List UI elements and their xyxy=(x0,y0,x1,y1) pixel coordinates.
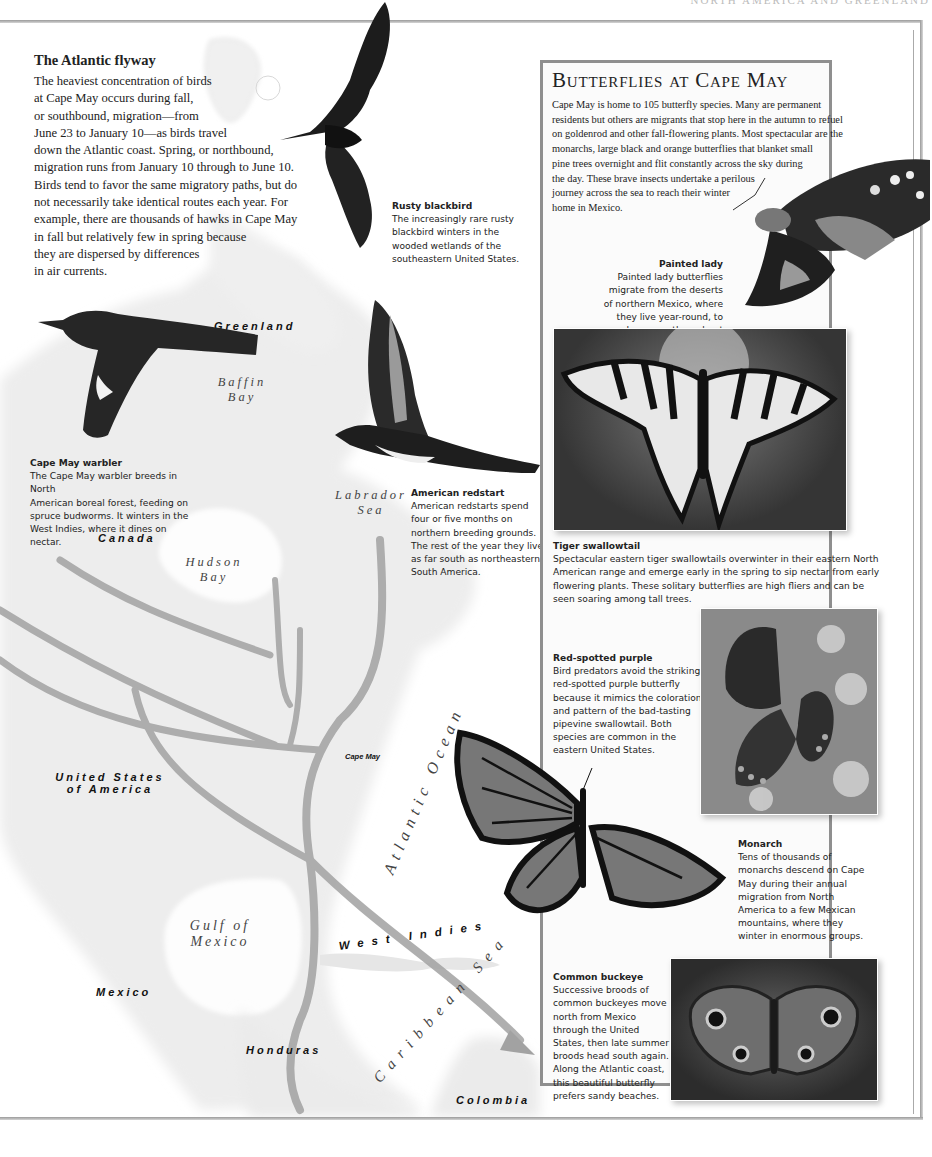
caption-tiger-swallowtail: Tiger swallowtail Spectacular eastern ti… xyxy=(553,540,913,606)
caption-line: States, then late summer xyxy=(553,1038,669,1048)
caption-american-redstart: American redstart American redstarts spe… xyxy=(411,487,546,579)
sidebar-line: Cape May is home to 105 butterfly specie… xyxy=(552,99,821,110)
caption-line: this beautiful butterfly xyxy=(553,1078,655,1088)
intro-line: down the Atlantic coast. Spring, or nort… xyxy=(34,143,274,157)
caption-line: The Cape May warbler breeds in North xyxy=(30,471,177,494)
intro-line: Birds tend to favor the same migratory p… xyxy=(34,178,297,192)
map-label-hudson-bay: Hudson Bay xyxy=(184,555,244,585)
map-label-usa-2: of America xyxy=(50,783,170,795)
map-label-usa-1: United States xyxy=(50,771,170,783)
caption-line: through the United xyxy=(553,1025,639,1035)
common-buckeye-illustration xyxy=(671,959,877,1100)
caption-line: Tens of thousands of xyxy=(738,852,832,862)
map-label-mexico: Mexico xyxy=(96,986,151,998)
caption-line: four or five months on xyxy=(411,514,512,524)
caption-line: as far south as northeastern xyxy=(411,554,540,564)
caption-line: of northern Mexico, where xyxy=(604,299,723,309)
map-label-hudson-2: Bay xyxy=(184,570,244,585)
intro-line: in fall but relatively few in spring bec… xyxy=(34,230,246,244)
map-label-gulf-1: Gulf of xyxy=(180,918,260,934)
sidebar-line: residents but others are migrants that s… xyxy=(552,114,843,125)
intro-line: not necessarily take identical routes ea… xyxy=(34,195,288,209)
caption-title: Tiger swallowtail xyxy=(553,540,913,553)
intro-line: at Cape May occurs during fall, xyxy=(34,91,193,105)
sidebar-line: on goldenrod and other fall-flowering pl… xyxy=(552,128,843,139)
cape-may-warbler-illustration xyxy=(38,300,263,445)
caption-line: South America. xyxy=(411,567,481,577)
caption-title: American redstart xyxy=(411,487,546,500)
sidebar-title: Butterflies at Cape May xyxy=(552,68,788,93)
painted-lady-illustration xyxy=(725,150,932,315)
map-label-gulf-2: Mexico xyxy=(180,934,260,950)
caption-line: mountains, where they xyxy=(738,918,843,928)
map-label-cape-may: Cape May xyxy=(345,752,380,761)
caption-line: American range and emerge early in the s… xyxy=(553,567,879,577)
caption-line: red-spotted purple butterfly xyxy=(553,679,680,689)
caption-line: West Indies, where it dines on nectar. xyxy=(30,524,167,547)
caption-line: winter in enormous groups. xyxy=(738,931,863,941)
caption-common-buckeye: Common buckeye Successive broods of comm… xyxy=(553,971,678,1103)
american-redstart-illustration xyxy=(335,295,540,475)
caption-line: American redstarts spend xyxy=(411,501,529,511)
map-label-gulf-of-mexico: Gulf of Mexico xyxy=(180,918,260,950)
caption-title: Common buckeye xyxy=(553,971,678,984)
caption-line: The increasingly rare rusty xyxy=(392,214,514,224)
map-label-labrador-sea: Labrador Sea xyxy=(335,488,407,518)
caption-line: and pattern of the bad-tasting xyxy=(553,706,691,716)
map-label-honduras: Honduras xyxy=(246,1044,321,1056)
caption-line: broods head south again. xyxy=(553,1051,669,1061)
caption-line: flowering plants. These solitary butterf… xyxy=(553,581,864,591)
caption-monarch: Monarch Tens of thousands of monarchs de… xyxy=(738,838,878,944)
tiger-swallowtail-illustration xyxy=(554,329,846,530)
intro-line: migration runs from January 10 through t… xyxy=(34,160,294,174)
intro-line: example, there are thousands of hawks in… xyxy=(34,212,297,226)
caption-title: Rusty blackbird xyxy=(392,200,537,213)
map-label-labrador-2: Sea xyxy=(335,503,407,518)
caption-title: Painted lady xyxy=(578,258,723,271)
intro-line: June 23 to January 10—as birds travel xyxy=(34,126,227,140)
intro-line: they are dispersed by differences xyxy=(34,247,200,261)
caption-rusty-blackbird: Rusty blackbird The increasingly rare ru… xyxy=(392,200,537,266)
caption-line: they live year-round, to xyxy=(617,312,723,322)
caption-line: Painted lady butterflies xyxy=(618,272,724,282)
caption-line: Successive broods of xyxy=(553,985,649,995)
caption-line: monarchs descend on Cape xyxy=(738,865,864,875)
caption-line: America to a few Mexican xyxy=(738,905,856,915)
intro-line: The heaviest concentration of birds xyxy=(34,74,212,88)
sidebar-line: home in Mexico. xyxy=(552,202,623,213)
caption-title: Monarch xyxy=(738,838,878,851)
top-rule xyxy=(0,20,920,23)
caption-line: May during their annual xyxy=(738,879,847,889)
map-label-colombia: Colombia xyxy=(456,1094,530,1106)
caption-line: Bird predators avoid the striking xyxy=(553,666,700,676)
common-buckeye-photo xyxy=(670,958,878,1101)
caption-cape-may-warbler: Cape May warbler The Cape May warbler br… xyxy=(30,457,200,549)
running-head: NORTH AMERICA AND GREENLAND xyxy=(640,0,930,4)
caption-line: seen soaring among tall trees. xyxy=(553,594,692,604)
caption-line: because it mimics the coloration xyxy=(553,693,702,703)
monarch-illustration xyxy=(452,728,732,923)
rusty-blackbird-illustration xyxy=(270,0,400,250)
caption-line: migration from North xyxy=(738,892,834,902)
caption-title: Cape May warbler xyxy=(30,457,200,470)
caption-line: American boreal forest, feeding on xyxy=(30,498,188,508)
bottom-rule xyxy=(0,1117,923,1120)
caption-line: spruce budworms. It winters in the xyxy=(30,511,188,521)
caption-line: north from Mexico xyxy=(553,1012,636,1022)
map-label-usa: United States of America xyxy=(50,771,170,795)
caption-line: The rest of the year they live xyxy=(411,541,543,551)
caption-line: prefers sandy beaches. xyxy=(553,1091,659,1101)
tiger-swallowtail-photo xyxy=(553,328,847,531)
intro-line: or southbound, migration—from xyxy=(34,109,199,123)
intro-line: in air currents. xyxy=(34,264,107,278)
caption-line: northern breeding grounds. xyxy=(411,528,536,538)
caption-line: Along the Atlantic coast, xyxy=(553,1064,664,1074)
caption-line: common buckeyes move xyxy=(553,998,667,1008)
caption-title: Red-spotted purple xyxy=(553,652,708,665)
map-label-labrador-1: Labrador xyxy=(335,488,407,503)
caption-line: migrate from the deserts xyxy=(609,285,723,295)
map-label-hudson-1: Hudson xyxy=(184,555,244,570)
caption-line: southeastern United States. xyxy=(392,254,519,264)
caption-line: Spectacular eastern tiger swallowtails o… xyxy=(553,554,879,564)
sidebar-line: journey across the sea to reach their wi… xyxy=(552,187,730,198)
